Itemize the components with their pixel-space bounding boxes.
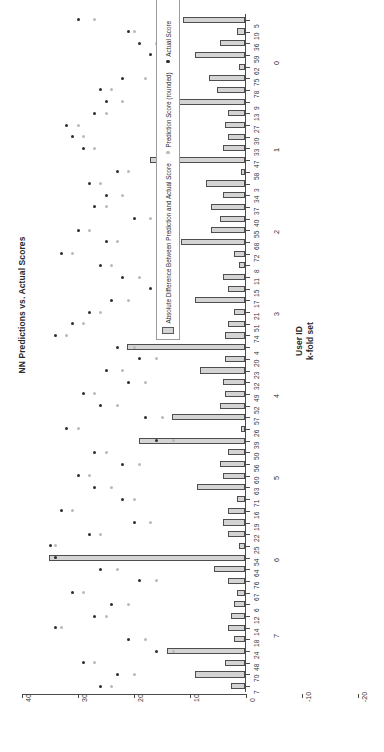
- kfold-group-label: 6: [272, 558, 281, 562]
- actual-score-point: [65, 427, 68, 430]
- bar: [228, 578, 245, 584]
- category-tick-label: 23: [253, 371, 260, 378]
- category-tick-label: 52: [253, 406, 260, 413]
- category-tick: [246, 125, 250, 126]
- bar: [49, 555, 245, 561]
- actual-score-point: [77, 18, 80, 21]
- prediction-score-point: [82, 591, 85, 594]
- category-tick: [246, 20, 250, 21]
- legend: Absolute Difference Between Prediction a…: [156, 0, 178, 340]
- prediction-score-point: [82, 322, 85, 325]
- bar: [231, 613, 245, 619]
- category-tick-label: 57: [253, 418, 260, 425]
- prediction-score-point: [149, 521, 152, 524]
- bar: [228, 531, 245, 537]
- category-tick: [246, 55, 250, 56]
- bar: [241, 169, 245, 175]
- kfold-group-label: 4: [272, 394, 281, 398]
- category-tick-label: 4: [253, 351, 260, 355]
- bar: [234, 636, 245, 642]
- category-tick-label: 26: [253, 430, 260, 437]
- legend-bar-swatch-icon: [162, 327, 174, 334]
- category-tick-label: 22: [253, 535, 260, 542]
- category-tick-label: 27: [253, 126, 260, 133]
- bar: [223, 473, 245, 479]
- prediction-score-point: [71, 509, 74, 512]
- value-tick-label: 20: [137, 694, 144, 702]
- prediction-score-point: [172, 439, 175, 442]
- prediction-score-point: [127, 299, 130, 302]
- prediction-score-point: [161, 416, 164, 419]
- category-tick-label: 75: [253, 79, 260, 86]
- actual-score-point: [82, 147, 85, 150]
- category-tick: [246, 219, 250, 220]
- category-tick-label: 71: [253, 500, 260, 507]
- bar: [228, 134, 245, 140]
- actual-score-point: [99, 685, 102, 688]
- bar: [223, 519, 245, 525]
- category-tick: [246, 195, 250, 196]
- bar: [220, 40, 245, 46]
- value-tick: [78, 694, 79, 698]
- bar: [234, 251, 245, 257]
- prediction-score-point: [88, 229, 91, 232]
- category-tick: [246, 324, 250, 325]
- category-axis-line: [245, 14, 246, 692]
- actual-score-point: [88, 182, 91, 185]
- category-tick-label: 6: [253, 609, 260, 613]
- category-tick: [246, 686, 250, 687]
- category-tick: [246, 523, 250, 524]
- bar: [237, 590, 245, 596]
- bar: [220, 216, 245, 222]
- category-tick: [246, 113, 250, 114]
- category-tick: [246, 534, 250, 535]
- actual-score-point: [71, 322, 74, 325]
- prediction-score-point: [144, 381, 147, 384]
- category-tick-label: 56: [253, 465, 260, 472]
- actual-score-point: [82, 392, 85, 395]
- category-tick-label: 47: [253, 161, 260, 168]
- actual-score-point: [65, 124, 68, 127]
- actual-score-point: [138, 357, 141, 360]
- category-tick-label: 51: [253, 324, 260, 331]
- prediction-score-point: [121, 194, 124, 197]
- bar: [195, 52, 245, 58]
- category-tick: [246, 347, 250, 348]
- value-tick-label: 0: [249, 698, 256, 702]
- category-tick-label: 9: [253, 106, 260, 110]
- bar: [239, 543, 245, 549]
- actual-score-point: [99, 568, 102, 571]
- value-tick: [246, 694, 247, 698]
- category-tick-label: 58: [253, 172, 260, 179]
- bar: [167, 648, 245, 654]
- kfold-group-label: 7: [272, 634, 281, 638]
- prediction-score-point: [110, 685, 113, 688]
- prediction-score-point: [138, 276, 141, 279]
- category-tick: [246, 452, 250, 453]
- category-tick-label: 13: [253, 114, 260, 121]
- category-tick: [246, 604, 250, 605]
- bar: [241, 426, 245, 432]
- bar: [183, 17, 245, 23]
- actual-score-point: [110, 603, 113, 606]
- prediction-score-point: [105, 451, 108, 454]
- bar: [239, 262, 245, 268]
- bar: [225, 356, 245, 362]
- legend-label: Prediction Score (rounded): [165, 72, 172, 147]
- category-tick-label: 32: [253, 383, 260, 390]
- category-tick-label: 39: [253, 441, 260, 448]
- actual-score-point: [116, 346, 119, 349]
- actual-score-point: [105, 194, 108, 197]
- prediction-score-point: [65, 334, 68, 337]
- bar: [172, 414, 245, 420]
- category-tick-label: 12: [253, 617, 260, 624]
- actual-score-point: [77, 229, 80, 232]
- category-tick-label: 19: [253, 523, 260, 530]
- prediction-score-point: [82, 135, 85, 138]
- category-tick: [246, 90, 250, 91]
- category-tick-label: 20: [253, 360, 260, 367]
- prediction-score-point: [110, 264, 113, 267]
- actual-score-point: [99, 264, 102, 267]
- actual-score-point: [60, 509, 63, 512]
- actual-score-point: [93, 451, 96, 454]
